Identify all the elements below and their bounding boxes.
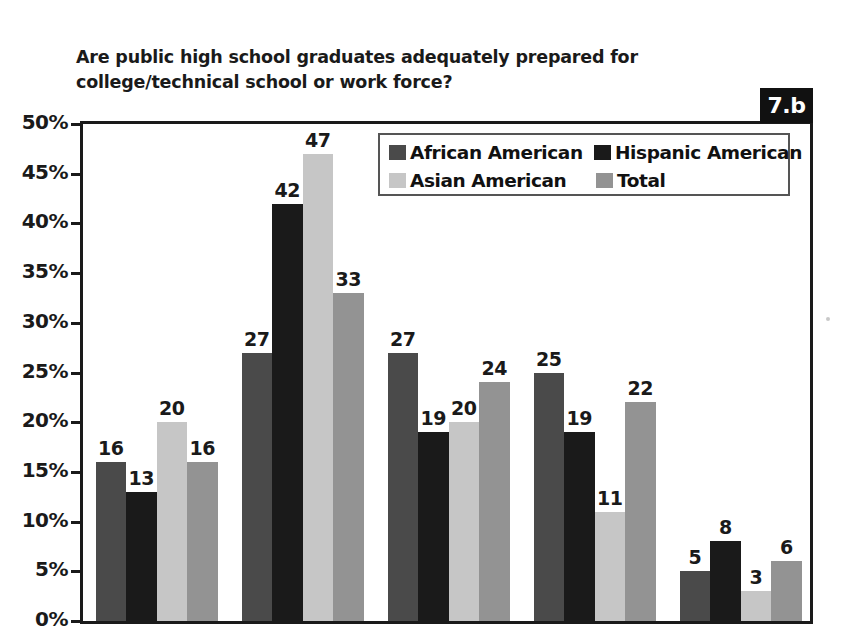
y-axis-tick-label: 30% (0, 309, 68, 333)
bar-value-label: 16 (90, 437, 133, 459)
bar-value-label: 16 (181, 437, 224, 459)
bar-value-label: 19 (558, 407, 601, 429)
legend-row: Asian AmericanTotal (380, 166, 788, 194)
y-axis-tick-mark (71, 471, 80, 474)
legend-row: African AmericanHispanic American (380, 138, 788, 166)
bar (333, 293, 364, 621)
y-axis-tick-label: 5% (0, 557, 68, 581)
plot-inner: 161320162742473327192024251911225836 (83, 124, 810, 621)
y-axis-tick-label: 15% (0, 458, 68, 482)
bar (680, 571, 711, 621)
figure-7b: Are public high school graduates adequat… (0, 0, 854, 643)
legend-swatch-icon (594, 145, 611, 160)
bar (741, 591, 772, 621)
legend-item: African American (380, 142, 594, 163)
chart-legend: African AmericanHispanic AmericanAsian A… (378, 133, 790, 196)
legend-label: African American (410, 142, 583, 163)
bar (771, 561, 802, 621)
y-axis-tick-mark (71, 372, 80, 375)
bar (595, 512, 626, 621)
bar (418, 432, 449, 621)
bar (388, 353, 419, 621)
y-axis-tick-label: 0% (0, 607, 68, 631)
y-axis-tick-mark (71, 521, 80, 524)
legend-label: Asian American (410, 170, 566, 191)
legend-label: Hispanic American (615, 142, 802, 163)
bar-value-label: 25 (528, 348, 571, 370)
y-axis-tick-label: 35% (0, 259, 68, 283)
y-axis-tick-label: 50% (0, 110, 68, 134)
bar (625, 402, 656, 621)
bar-value-label: 22 (619, 377, 662, 399)
bar (564, 432, 595, 621)
legend-swatch-icon (389, 145, 406, 160)
bar-value-label: 47 (297, 129, 340, 151)
y-axis-tick-mark (71, 123, 80, 126)
y-axis-tick-label: 10% (0, 508, 68, 532)
legend-item: Total (596, 170, 788, 191)
bar-value-label: 27 (382, 328, 425, 350)
y-axis-tick-mark (71, 322, 80, 325)
bar (126, 492, 157, 621)
legend-swatch-icon (389, 173, 406, 188)
bar (303, 154, 334, 621)
y-axis-tick-label: 25% (0, 359, 68, 383)
bar-value-label: 20 (151, 397, 194, 419)
y-axis-tick-label: 45% (0, 160, 68, 184)
bar-value-label: 33 (327, 268, 370, 290)
bar-value-label: 8 (704, 516, 747, 538)
y-axis-tick-mark (71, 570, 80, 573)
y-axis-tick-mark (71, 421, 80, 424)
y-axis-tick-mark (71, 173, 80, 176)
bar-value-label: 24 (473, 357, 516, 379)
bar-value-label: 6 (765, 536, 808, 558)
y-axis-tick-mark (71, 620, 80, 623)
y-axis-tick-mark (71, 272, 80, 275)
y-axis-tick-label: 40% (0, 209, 68, 233)
bar (187, 462, 218, 621)
bar (479, 382, 510, 621)
legend-item: Asian American (380, 170, 596, 191)
legend-swatch-icon (596, 173, 613, 188)
bar (242, 353, 273, 621)
legend-label: Total (617, 170, 666, 191)
scan-speck (826, 317, 830, 321)
figure-number-badge: 7.b (760, 88, 813, 123)
legend-item: Hispanic American (594, 142, 788, 163)
chart-title: Are public high school graduates adequat… (76, 45, 776, 95)
y-axis-tick-label: 20% (0, 408, 68, 432)
y-axis-tick-mark (71, 222, 80, 225)
bar (449, 422, 480, 621)
plot-area: 161320162742473327192024251911225836 (80, 121, 813, 624)
bar (272, 204, 303, 621)
